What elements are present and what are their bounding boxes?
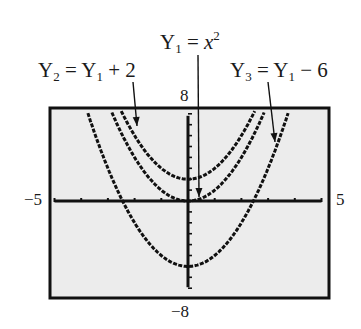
pointer-y1	[198, 55, 199, 197]
xmax-label: 5	[336, 190, 345, 210]
xmin-label: −5	[24, 190, 42, 210]
label-y1: Y1 = x2	[160, 28, 220, 57]
label-y2: Y2 = Y1 + 2	[38, 58, 136, 85]
ymax-label: 8	[180, 86, 189, 106]
ymin-label: −8	[171, 302, 189, 322]
label-y3: Y3 = Y1 − 6	[230, 58, 328, 85]
